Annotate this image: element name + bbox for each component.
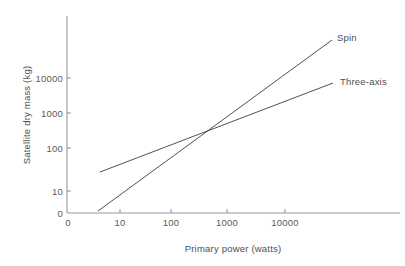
x-tick-label-0: 0 <box>65 217 70 228</box>
y-tick-label-0: 0 <box>58 208 63 219</box>
x-tick-label-1000: 1000 <box>216 217 238 228</box>
y-tick-label-10: 10 <box>52 186 63 197</box>
series-label-three-axis: Three-axis <box>340 76 387 87</box>
y-tick-label-1000: 1000 <box>41 108 63 119</box>
y-axis-ticks <box>67 78 71 191</box>
x-tick-label-10: 10 <box>115 217 126 228</box>
x-tick-label-100: 100 <box>163 217 179 228</box>
series-line-three-axis <box>100 83 333 172</box>
x-axis-ticks <box>120 209 285 213</box>
series-label-spin: Spin <box>337 32 357 43</box>
x-axis-title: Primary power (watts) <box>185 243 282 254</box>
y-tick-label-10000: 10000 <box>36 73 63 84</box>
series-line-spin <box>98 40 332 211</box>
y-axis-title: Satellite dry mass (kg) <box>21 66 32 165</box>
x-tick-label-10000: 10000 <box>271 217 298 228</box>
chart-figure: 0 10 100 1000 10000 0 10 100 1000 10000 … <box>0 0 405 266</box>
y-tick-label-100: 100 <box>47 143 63 154</box>
